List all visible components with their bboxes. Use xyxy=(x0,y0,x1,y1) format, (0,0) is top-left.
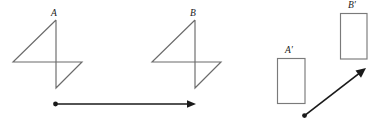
label-b: B xyxy=(190,9,196,19)
label-a: A xyxy=(51,9,57,19)
vector-shaft-diagonal xyxy=(305,73,360,115)
rectangle-shape-a-prime xyxy=(278,59,306,104)
label-b-prime: B′ xyxy=(348,1,356,11)
translation-vector-horizontal xyxy=(53,100,196,108)
geometry-figure-canvas: A B A′ B′ xyxy=(0,0,383,122)
label-a-prime: A′ xyxy=(285,46,293,56)
rectangle-shape-b-prime xyxy=(341,14,368,60)
translation-vector-diagonal xyxy=(302,68,366,118)
vector-arrowhead-diagonal xyxy=(356,68,367,78)
pinwheel-shape-a xyxy=(13,20,82,88)
pinwheel-shape-b xyxy=(152,20,221,88)
vector-arrowhead-horizontal xyxy=(187,100,196,108)
